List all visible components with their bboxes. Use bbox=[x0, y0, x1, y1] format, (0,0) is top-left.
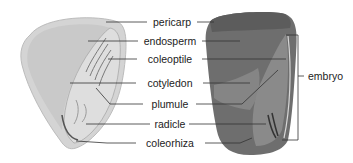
label-coleorhiza: coleorhiza bbox=[144, 137, 196, 149]
label-radicle: radicle bbox=[153, 118, 188, 130]
photo-kernel bbox=[206, 12, 297, 155]
label-endosperm: endosperm bbox=[142, 35, 199, 47]
label-plumule: plumule bbox=[150, 98, 191, 110]
label-cotyledon: cotyledon bbox=[146, 77, 195, 89]
label-coleoptile: coleoptile bbox=[146, 53, 194, 65]
label-pericarp: pericarp bbox=[151, 16, 193, 28]
label-embryo: embryo bbox=[306, 70, 345, 82]
